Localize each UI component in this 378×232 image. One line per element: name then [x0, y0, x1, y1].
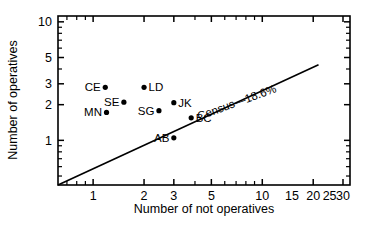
x-tick-label: 10	[255, 189, 269, 203]
data-point-marker	[103, 85, 108, 90]
plot-frame	[58, 16, 350, 185]
data-point-label: BC	[196, 112, 212, 124]
data-point: SE	[104, 96, 126, 108]
data-point-marker	[121, 100, 126, 105]
y-axis-ticks	[58, 22, 350, 176]
x-tick-label: 2	[141, 189, 148, 203]
data-point-label: AB	[154, 132, 170, 144]
x-tick-label: 5	[208, 189, 215, 203]
y-tick-label: 10	[38, 15, 52, 29]
data-point-label: SG	[138, 105, 155, 117]
data-point-marker	[189, 115, 194, 120]
data-point: CE	[85, 81, 108, 93]
x-tick-label: 25	[323, 189, 337, 203]
chart-canvas: 12351015202530 123510 Census—18.6% CESEL…	[0, 0, 378, 232]
data-point-label: SE	[104, 96, 120, 108]
y-tick-label: 2	[45, 98, 52, 112]
data-point-label: MN	[84, 106, 102, 118]
data-point: JK	[171, 97, 192, 109]
scatter-chart-figure: 12351015202530 123510 Census—18.6% CESEL…	[0, 0, 378, 232]
data-point-marker	[171, 135, 176, 140]
data-point: AB	[154, 132, 176, 144]
x-axis-tick-labels: 12351015202530	[90, 189, 350, 203]
data-point-marker	[141, 85, 146, 90]
data-point: SG	[138, 105, 162, 117]
y-tick-label: 3	[45, 77, 52, 91]
data-point: LD	[141, 81, 163, 93]
data-point: MN	[84, 106, 109, 118]
x-tick-label: 20	[306, 189, 320, 203]
data-point-label: JK	[178, 97, 192, 109]
axes-frame	[58, 16, 350, 185]
data-points-group: CESELDMNJKSGBCAB	[84, 81, 212, 143]
x-tick-label: 30	[336, 189, 350, 203]
y-axis-tick-labels: 123510	[38, 15, 52, 148]
x-axis-title: Number of not operatives	[134, 202, 274, 216]
x-tick-label: 3	[170, 189, 177, 203]
data-point-marker	[156, 108, 161, 113]
data-point: BC	[189, 112, 212, 124]
data-point-label: LD	[149, 81, 164, 93]
y-tick-label: 5	[45, 51, 52, 65]
data-point-label: CE	[85, 81, 101, 93]
data-point-marker	[104, 110, 109, 115]
y-axis-title: Number of operatives	[6, 40, 20, 160]
x-tick-label: 15	[285, 189, 299, 203]
data-point-marker	[171, 100, 176, 105]
x-tick-label: 1	[90, 189, 97, 203]
y-tick-label: 1	[45, 134, 52, 148]
